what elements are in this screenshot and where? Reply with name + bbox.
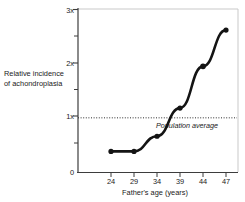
plot-area xyxy=(0,0,245,202)
data-point-44 xyxy=(200,64,206,70)
data-point-39 xyxy=(177,105,182,110)
chart-figure: Relative incidence of achondroplasia 3x … xyxy=(0,0,245,202)
data-point-29 xyxy=(131,149,136,154)
data-point-24 xyxy=(108,149,113,154)
data-point-34 xyxy=(154,134,159,139)
data-point-47 xyxy=(223,27,228,32)
data-line xyxy=(111,30,226,151)
